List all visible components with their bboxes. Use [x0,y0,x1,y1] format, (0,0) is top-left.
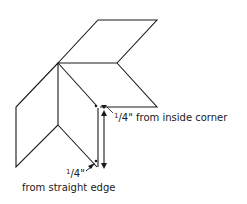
top-panel [58,20,157,63]
label-text: from inside corner [133,112,228,123]
fraction-numerator: 1 [66,168,70,176]
lower-diagonal [58,125,97,167]
right-flap [100,63,157,107]
fraction-denominator: /4" [118,112,132,123]
pointer-line-bottom [86,167,91,171]
folded-corner-diagram [0,0,247,204]
pointer-line-top [107,107,113,113]
arrowhead-down [101,163,107,169]
mark-dot-bottom [95,160,98,163]
label-straight-edge: from straight edge [22,182,115,193]
mark-dot-top [95,105,98,108]
arrowhead-up [101,110,107,116]
label-straight-edge-fraction: 1/4" [66,168,85,179]
left-panel [16,63,58,167]
fraction-numerator: 1 [114,112,118,120]
inner-diagonal [58,63,96,105]
label-inside-corner: 1/4" from inside corner [114,112,227,123]
fraction-denominator: /4" [70,168,84,179]
